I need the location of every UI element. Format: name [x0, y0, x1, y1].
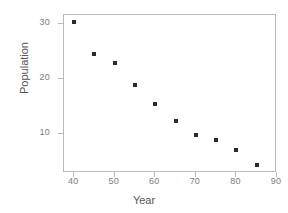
y-tick-label: 10: [30, 127, 50, 137]
data-point: [214, 138, 218, 142]
data-point: [194, 133, 198, 137]
x-axis-label: Year: [0, 194, 288, 206]
data-point: [153, 102, 157, 106]
y-tick-label: 30: [30, 17, 50, 27]
data-point: [113, 61, 117, 65]
y-tick-mark: [58, 78, 63, 79]
data-point: [72, 20, 76, 24]
data-point: [234, 148, 238, 152]
y-tick-mark: [58, 23, 63, 24]
x-tick-label: 60: [142, 176, 166, 186]
x-tick-label: 40: [61, 176, 85, 186]
data-point: [133, 83, 137, 87]
x-tick-label: 50: [102, 176, 126, 186]
data-point: [255, 163, 259, 167]
x-tick-label: 90: [264, 176, 288, 186]
x-tick-label: 80: [223, 176, 247, 186]
scatter-plot-figure: 405060708090 102030 Year Population: [0, 0, 288, 213]
y-tick-label: 20: [30, 72, 50, 82]
data-point: [92, 52, 96, 56]
plot-frame: [63, 14, 276, 172]
data-point: [174, 119, 178, 123]
y-axis-label: Population: [18, 8, 30, 128]
y-tick-mark: [58, 133, 63, 134]
x-tick-label: 70: [183, 176, 207, 186]
